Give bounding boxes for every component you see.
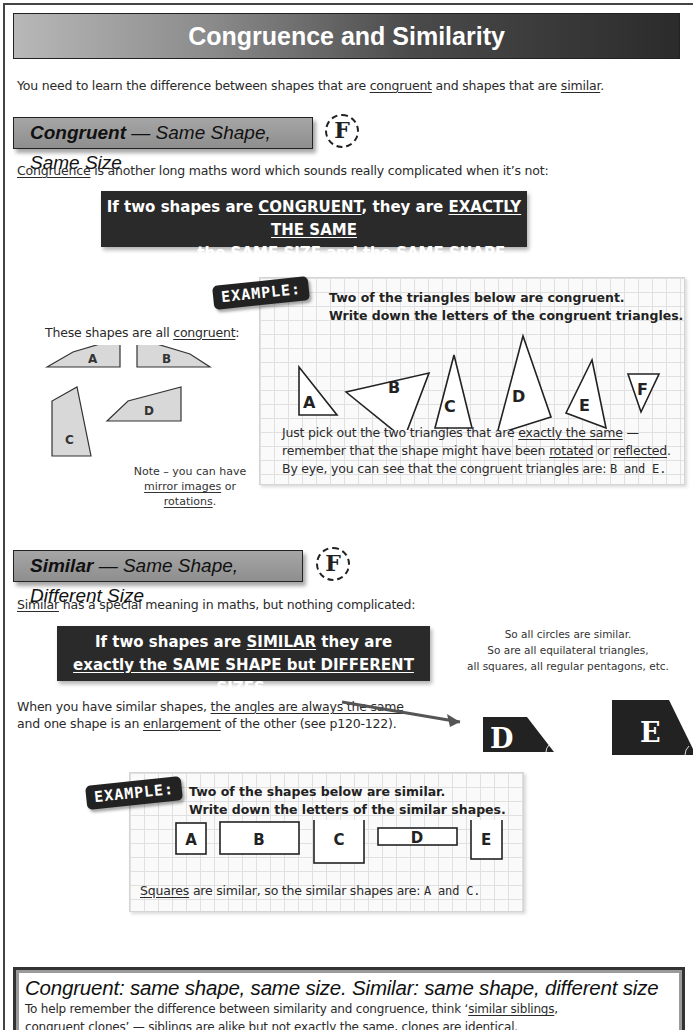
similar-side-note: So all circles are similar. So are all e… (443, 626, 693, 674)
congruent-quadrilaterals-diagram: A B C D (40, 345, 240, 465)
congruent-rule-box: If two shapes are CONGRUENT, they are EX… (101, 191, 527, 247)
svg-text:E: E (640, 717, 661, 748)
svg-text:D: D (490, 723, 513, 754)
svg-text:C: C (333, 831, 344, 849)
svg-text:C: C (65, 433, 74, 447)
svg-text:C: C (444, 397, 456, 416)
svg-text:A: A (303, 393, 316, 412)
intro-text: You need to learn the difference between… (17, 78, 604, 93)
svg-text:D: D (144, 404, 154, 418)
congruence-description: Congruence is another long maths word wh… (17, 163, 548, 178)
similar-example-answer: Squares are similar, so the similar shap… (140, 883, 480, 898)
congruent-answer-value: B and E. (610, 462, 666, 476)
svg-text:D: D (411, 829, 423, 847)
similar-description: Similar has a special meaning in maths, … (17, 597, 415, 612)
congruent-heading: Congruent — Same Shape, Same Size (13, 117, 313, 149)
svg-text:A: A (185, 831, 197, 849)
svg-text:A: A (88, 352, 98, 366)
term-congruent: congruent (370, 78, 432, 93)
svg-text:B: B (253, 831, 264, 849)
summary-text: To help remember the difference between … (25, 1000, 673, 1030)
congruent-example-answer: Just pick out the two triangles that are… (282, 424, 671, 478)
triangles-diagram: A B C D E F (290, 325, 670, 430)
term-similar: similar (561, 78, 600, 93)
svg-text:E: E (481, 831, 491, 849)
summary-title: Congruent: same shape, same size. Simila… (25, 976, 673, 1000)
arrow-icon (342, 702, 460, 722)
foundation-badge-icon: F (316, 547, 350, 581)
similar-example-question: Two of the shapes below are similar. Wri… (189, 783, 506, 819)
svg-text:B: B (162, 352, 171, 366)
svg-text:E: E (579, 396, 590, 415)
similar-trapezium-diagram: D E (340, 690, 693, 760)
quad-a (47, 345, 120, 367)
rectangles-diagram: A B C D E (170, 820, 520, 880)
svg-text:F: F (637, 380, 648, 399)
foundation-badge-icon: F (325, 114, 359, 148)
svg-text:B: B (388, 378, 400, 397)
svg-text:D: D (512, 387, 525, 406)
mirror-rotation-note: Note – you can have mirror images or rot… (120, 464, 260, 509)
summary-box: Congruent: same shape, same size. Simila… (13, 967, 685, 1030)
congruent-example-question: Two of the triangles below are congruent… (329, 289, 683, 325)
congruent-shapes-caption: These shapes are all congruent: (45, 325, 239, 340)
similar-answer-value: A and C. (424, 884, 480, 898)
page-title: Congruence and Similarity (13, 13, 680, 59)
similar-rule-box: If two shapes are SIMILAR they are exact… (57, 626, 430, 681)
similar-heading: Similar — Same Shape, Different Size (13, 550, 303, 582)
